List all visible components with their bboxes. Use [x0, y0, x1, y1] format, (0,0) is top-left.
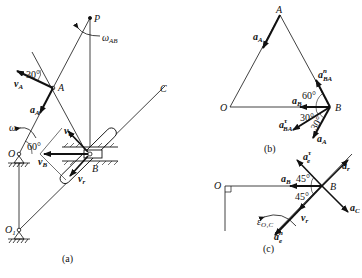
label-aC: aC	[350, 202, 360, 215]
rod-line-c	[275, 154, 352, 233]
label-angle-45-c2: 45°	[295, 191, 309, 202]
label-epsilon: εO₁C	[257, 216, 273, 229]
panel-a	[8, 16, 165, 243]
line-A-P	[53, 18, 90, 88]
label-angle-30: 30°	[26, 69, 40, 80]
caption-b: (b)	[264, 143, 276, 155]
label-angle-60: 60°	[27, 141, 41, 152]
label-aBA-n: anBA	[318, 67, 333, 83]
label-P: P	[93, 13, 100, 24]
right-angle-mark	[225, 186, 231, 192]
label-aA: aA	[30, 104, 40, 117]
label-aA-top: aA	[253, 31, 263, 44]
label-O-c: O	[214, 180, 221, 191]
label-O1: O1	[5, 224, 16, 237]
vector-aA	[40, 88, 53, 113]
panel-b-labels: A aA anBA 60° aB O B 30° 30° aτBA aA (b)	[220, 4, 341, 155]
label-vr: vr	[78, 173, 85, 186]
pin-B	[88, 152, 92, 156]
label-aBA-t: aτBA	[279, 117, 293, 133]
label-omega-AB: ωAB	[102, 32, 118, 45]
label-A-b: A	[275, 4, 283, 15]
label-vB: vB	[38, 156, 47, 169]
label-B-b: B	[335, 102, 341, 113]
normal-line-A	[32, 52, 85, 150]
label-B-c: B	[330, 181, 336, 192]
vector-aBA-n	[316, 80, 330, 107]
label-B: B	[92, 163, 98, 174]
label-vr-c: vr	[301, 212, 308, 225]
label-ae-t: aτe	[303, 149, 312, 165]
angle-arc-60-b	[316, 94, 322, 107]
angle-arc-30-b1	[316, 107, 318, 114]
vector-aA-top	[263, 15, 280, 48]
panel-c	[225, 154, 352, 235]
label-vA: vA	[14, 78, 23, 91]
ve-construction-1	[40, 128, 62, 154]
label-ar: ar	[342, 160, 350, 173]
mechanism-diagram: P ωAB 30° vA A aA C ω ve 60° O vB B vr O…	[0, 0, 362, 278]
label-A: A	[57, 82, 65, 93]
caption-c: (c)	[263, 243, 274, 255]
point-P	[88, 16, 91, 19]
caption-a: (a)	[62, 253, 73, 265]
label-aB-c: aB	[281, 173, 291, 186]
label-angle-60-b: 60°	[302, 90, 316, 101]
panel-a-labels: P ωAB 30° vA A aA C ω ve 60° O vB B vr O…	[5, 13, 167, 265]
label-ve: ve	[64, 125, 72, 138]
label-ae-n: ane	[274, 229, 283, 245]
label-omega: ω	[9, 122, 16, 133]
label-angle-45-c1: 45°	[296, 173, 310, 184]
label-O-b: O	[220, 102, 227, 113]
label-C: C	[160, 83, 167, 94]
label-aA-bottom: aA	[317, 133, 327, 146]
label-aB-b: aB	[292, 95, 302, 108]
label-O: O	[8, 148, 15, 159]
